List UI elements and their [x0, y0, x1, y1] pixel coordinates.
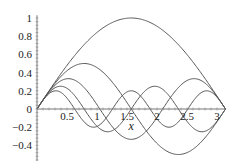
- y-tick-label: 0.6: [18, 48, 32, 60]
- x-tick-label: 2: [154, 110, 160, 122]
- series-line-1: [37, 18, 226, 109]
- curves: [37, 18, 226, 155]
- y-tick-label: 1: [27, 12, 33, 24]
- y-tick-label: 0.2: [18, 85, 32, 97]
- x-tick-label: 0.5: [60, 110, 74, 122]
- line-chart: 0.511.522.5310.80.60.40.20−0.2−0.4x: [0, 0, 238, 168]
- x-tick-label: 2.5: [180, 110, 194, 122]
- x-tick-label: 1: [94, 110, 100, 122]
- y-tick-label: 0: [27, 103, 33, 115]
- x-tick-label: 3: [214, 110, 220, 122]
- y-tick-label: 0.4: [18, 67, 32, 79]
- x-axis-label: x: [128, 119, 135, 133]
- y-tick-label: −0.2: [12, 121, 32, 133]
- y-tick-label: −0.4: [12, 139, 32, 151]
- y-tick-label: 0.8: [18, 30, 32, 42]
